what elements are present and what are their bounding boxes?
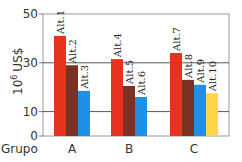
y-axis-label-unit: US$ bbox=[11, 48, 25, 72]
x-category-label: C bbox=[190, 142, 198, 156]
y-tick-label: 10 bbox=[23, 105, 38, 119]
bar-label: Alt.5 bbox=[124, 60, 135, 85]
y-axis-label-base: 10 bbox=[11, 80, 25, 95]
y-tick-label: 50 bbox=[23, 7, 38, 21]
x-axis-label: Grupo bbox=[1, 142, 38, 156]
grouped-bar-chart: Alt.1Alt.2Alt.3Alt.4Alt.5Alt.6Alt.7Alt.8… bbox=[0, 0, 242, 162]
bar-alt2 bbox=[66, 65, 78, 136]
bar-label: Alt.4 bbox=[112, 33, 123, 58]
bar-alt9 bbox=[194, 85, 206, 136]
bar-alt7 bbox=[170, 53, 182, 136]
bar-alt8 bbox=[182, 80, 194, 136]
bar-label: Alt.8 bbox=[183, 54, 194, 79]
bar-label: Alt.9 bbox=[195, 59, 206, 84]
y-axis-label: 106US$ bbox=[10, 48, 25, 95]
y-axis-ticks: 0103050 bbox=[23, 7, 43, 143]
bar-label: Alt.3 bbox=[79, 65, 90, 90]
svg-text:106US$: 106US$ bbox=[10, 48, 25, 95]
y-axis-label-exp: 6 bbox=[10, 75, 19, 80]
bar-label: Alt.7 bbox=[171, 27, 182, 52]
bar-alt1 bbox=[54, 36, 66, 136]
bar-label: Alt.10 bbox=[207, 61, 218, 92]
bar-alt3 bbox=[78, 91, 90, 136]
y-tick-label: 0 bbox=[30, 129, 38, 143]
bar-label: Alt.1 bbox=[55, 10, 66, 35]
y-tick-label: 30 bbox=[23, 56, 38, 70]
x-category-label: B bbox=[125, 142, 133, 156]
bar-alt10 bbox=[206, 93, 218, 136]
bar-alt6 bbox=[135, 97, 147, 136]
bar-alt4 bbox=[111, 59, 123, 136]
bar-label: Alt.6 bbox=[136, 71, 147, 96]
x-category-label: A bbox=[68, 142, 77, 156]
bar-label: Alt.2 bbox=[67, 39, 78, 64]
x-axis-categories: ABC bbox=[68, 142, 198, 156]
bar-alt5 bbox=[123, 86, 135, 136]
